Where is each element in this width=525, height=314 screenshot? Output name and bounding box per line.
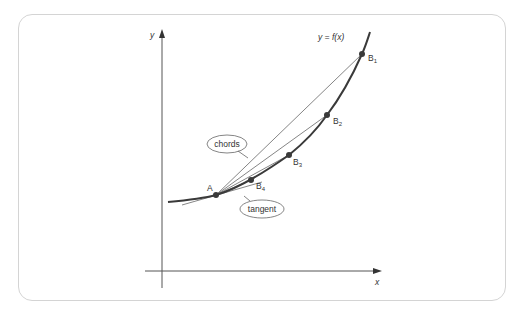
axes bbox=[145, 29, 382, 288]
point-b1 bbox=[359, 51, 365, 57]
svg-text:chords: chords bbox=[214, 139, 240, 149]
tangent-callout: tangent bbox=[240, 196, 284, 218]
point-b4 bbox=[248, 177, 254, 183]
point-b2 bbox=[324, 112, 330, 118]
label-b2: B2 bbox=[333, 116, 343, 127]
label-b4: B4 bbox=[256, 181, 266, 192]
y-axis-arrow-icon bbox=[159, 29, 165, 38]
curve bbox=[168, 32, 370, 202]
label-b3: B3 bbox=[293, 157, 303, 168]
chords-callout: chords bbox=[207, 135, 248, 158]
tangent-diagram: y x y = f(x) A B1 B2 B3 B4 chords tangen… bbox=[0, 0, 525, 314]
y-axis-label: y bbox=[149, 30, 155, 40]
label-a: A bbox=[207, 183, 213, 193]
x-axis-label: x bbox=[374, 277, 380, 287]
point-a bbox=[213, 192, 219, 198]
x-axis-arrow-icon bbox=[373, 268, 382, 274]
curve-label: y = f(x) bbox=[317, 32, 344, 42]
svg-text:tangent: tangent bbox=[248, 204, 277, 214]
point-b3 bbox=[286, 152, 292, 158]
label-b1: B1 bbox=[368, 53, 378, 64]
